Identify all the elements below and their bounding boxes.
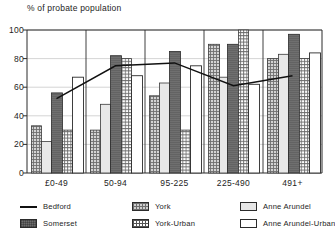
chart-legend: Bedford York Anne Arundel Somerset York-… [20,198,332,232]
bar-anne-arundel-1 [101,104,111,173]
bar-york-1 [91,130,101,173]
bar-york-urban-1 [122,59,132,173]
bar-york-0 [32,126,42,173]
bar-somerset-3 [228,44,239,173]
bar-york-2 [150,96,160,173]
legend-label-somerset: Somerset [43,219,77,228]
legend-swatch-line-icon [20,202,37,211]
bar-group-3 [209,30,260,173]
bar-group-1 [91,56,143,173]
bar-somerset-1 [111,56,122,173]
bar-anne-arundel-urban-2 [191,66,202,173]
x-tick-3: 225-490 [217,178,250,188]
bar-chart: % of probate population 100 80 60 40 20 … [0,0,335,235]
y-axis-ticks [23,30,27,173]
bar-anne-arundel-2 [160,83,170,173]
legend-item-bedford: Bedford [20,202,132,211]
legend-item-anne-arundel: Anne Arundel [240,202,335,211]
legend-swatch-somerset-icon [20,219,37,228]
legend-label-anne-arundel-urban: Anne Arundel-Urban [263,219,335,228]
legend-label-bedford: Bedford [43,202,71,211]
bar-anne-arundel-urban-4 [310,53,321,173]
bar-anne-arundel-urban-1 [132,76,143,173]
x-tick-4: 491+ [282,178,302,188]
bar-group-4 [268,34,321,173]
legend-item-york: York [132,202,240,211]
legend-label-york-urban: York-Urban [155,219,195,228]
bar-anne-arundel-3 [220,77,228,173]
legend-item-york-urban: York-Urban [132,219,240,228]
bar-somerset-4 [289,34,300,173]
legend-swatch-anne-arundel-icon [240,202,257,211]
bar-york-3 [209,44,220,173]
bar-somerset-2 [170,52,181,174]
bar-anne-arundel-4 [279,54,289,173]
bar-anne-arundel-urban-3 [249,84,260,173]
bar-group-0 [32,77,84,173]
legend-item-anne-arundel-urban: Anne Arundel-Urban [240,219,335,228]
legend-item-somerset: Somerset [20,219,132,228]
x-tick-2: 95-225 [160,178,188,188]
bar-anne-arundel-0 [42,142,52,174]
legend-label-anne-arundel: Anne Arundel [263,202,311,211]
x-tick-1: 50-94 [104,178,127,188]
bar-anne-arundel-urban-0 [73,77,84,173]
bar-york-urban-0 [63,130,73,173]
legend-label-york: York [155,202,171,211]
x-tick-0: £0-49 [45,178,68,188]
bar-somerset-0 [52,93,63,173]
bar-york-urban-4 [300,59,310,173]
bar-york-urban-2 [181,130,191,173]
bar-york-4 [268,59,279,173]
legend-swatch-york-icon [132,202,149,211]
legend-swatch-york-urban-icon [132,219,149,228]
bar-york-urban-3 [239,30,249,173]
legend-swatch-anne-arundel-urban-icon [240,219,257,228]
